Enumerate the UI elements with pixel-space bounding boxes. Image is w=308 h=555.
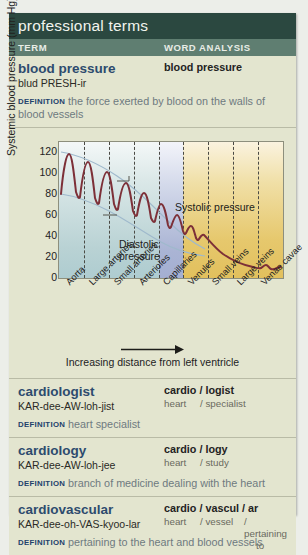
term-column: cardiovascular KAR-dee-oh-VAS-kyoo-lar xyxy=(18,502,164,531)
entry-cardiologist: cardiologist KAR-dee-AW-loh-jist cardio … xyxy=(9,379,296,438)
word-meaning: / study xyxy=(200,457,229,469)
definition-tag: DEFINITION xyxy=(18,479,65,488)
entry-cardiology: cardiology KAR-dee-AW-loh-jee cardio / l… xyxy=(9,438,296,497)
y-tick: 80 xyxy=(27,187,57,199)
word-analysis-column: blood pressure xyxy=(164,61,292,74)
entry-top-row: cardiologist KAR-dee-AW-loh-jist cardio … xyxy=(18,384,288,414)
page-title: professional terms xyxy=(18,17,148,35)
y-tick: 120 xyxy=(27,145,57,157)
word-parts-label: cardio / logy xyxy=(164,443,292,456)
term-label: cardiology xyxy=(18,443,164,458)
y-axis-ticks: 0 20 40 60 80 100 120 xyxy=(21,141,57,277)
definition-text: branch of medicine dealing with the hear… xyxy=(68,477,265,489)
pronunciation-label: KAR-dee-oh-VAS-kyoo-lar xyxy=(18,518,164,531)
column-header-word-analysis: WORD ANALYSIS xyxy=(164,42,251,53)
word-parts-label: cardio / logist xyxy=(164,384,292,397)
word-analysis-column: cardio / logist heart / specialist xyxy=(164,384,292,410)
word-analysis-column: cardio / vascul / ar heart / vessel / pe… xyxy=(164,502,292,552)
entry-blood-pressure: blood pressure blud PRESH-ir blood press… xyxy=(9,56,296,128)
definition-tag: DEFINITION xyxy=(18,538,65,547)
term-label: blood pressure xyxy=(18,61,164,76)
term-label: cardiologist xyxy=(18,384,164,399)
term-column: blood pressure blud PRESH-ir xyxy=(18,61,164,90)
word-meanings-row: heart / specialist xyxy=(164,398,292,410)
y-tick: 40 xyxy=(27,229,57,241)
pronunciation-label: KAR-dee-AW-loh-jee xyxy=(18,459,164,472)
annotation-systolic: Systolic pressure xyxy=(175,201,255,213)
word-parts-label: blood pressure xyxy=(164,61,292,74)
y-tick: 60 xyxy=(27,208,57,220)
x-axis-labels: Aorta Large arteries Small arteries Arte… xyxy=(58,280,282,342)
entry-top-row: blood pressure blud PRESH-ir blood press… xyxy=(18,61,288,91)
x-axis-label: Increasing distance from left ventricle xyxy=(9,356,296,368)
y-axis-label: Systemic blood pressure (mm Hg) xyxy=(5,6,17,156)
word-meaning-continuation: to xyxy=(256,540,292,552)
definition-tag: DEFINITION xyxy=(18,420,65,429)
y-tick: 0 xyxy=(27,271,57,283)
word-meanings-row: heart / vessel / pertaining xyxy=(164,516,292,540)
definition-text: heart specialist xyxy=(68,418,140,430)
term-column: cardiology KAR-dee-AW-loh-jee xyxy=(18,443,164,472)
word-analysis-column: cardio / logy heart / study xyxy=(164,443,292,469)
column-header-term: TERM xyxy=(18,42,47,53)
blood-pressure-chart: Systemic blood pressure (mm Hg) 0 20 40 … xyxy=(9,128,296,379)
word-meaning: / specialist xyxy=(200,398,246,410)
entry-top-row: cardiology KAR-dee-AW-loh-jee cardio / l… xyxy=(18,443,288,473)
y-tick: 20 xyxy=(27,250,57,262)
card-title-bar: professional terms xyxy=(9,13,296,39)
word-meaning: heart xyxy=(164,398,200,410)
word-meaning: / pertaining xyxy=(244,516,292,540)
word-meaning: heart xyxy=(164,457,200,469)
entry-cardiovascular: cardiovascular KAR-dee-oh-VAS-kyoo-lar c… xyxy=(9,497,296,555)
professional-terms-card: professional terms TERM WORD ANALYSIS bl… xyxy=(9,13,296,515)
pronunciation-label: blud PRESH-ir xyxy=(18,77,164,90)
term-label: cardiovascular xyxy=(18,502,164,517)
column-header-bar: TERM WORD ANALYSIS xyxy=(9,39,296,56)
definition-row: DEFINITION heart specialist xyxy=(18,418,288,431)
word-meaning: / vessel xyxy=(200,516,244,540)
term-column: cardiologist KAR-dee-AW-loh-jist xyxy=(18,384,164,413)
pronunciation-label: KAR-dee-AW-loh-jist xyxy=(18,400,164,413)
word-parts-label: cardio / vascul / ar xyxy=(164,502,292,515)
word-meanings-row: heart / study xyxy=(164,457,292,469)
word-meaning: heart xyxy=(164,516,200,540)
definition-tag: DEFINITION xyxy=(18,97,65,106)
y-tick: 100 xyxy=(27,166,57,178)
definition-row: DEFINITION branch of medicine dealing wi… xyxy=(18,477,288,490)
entry-top-row: cardiovascular KAR-dee-oh-VAS-kyoo-lar c… xyxy=(18,502,288,532)
definition-row: DEFINITION the force exerted by blood on… xyxy=(18,95,288,121)
